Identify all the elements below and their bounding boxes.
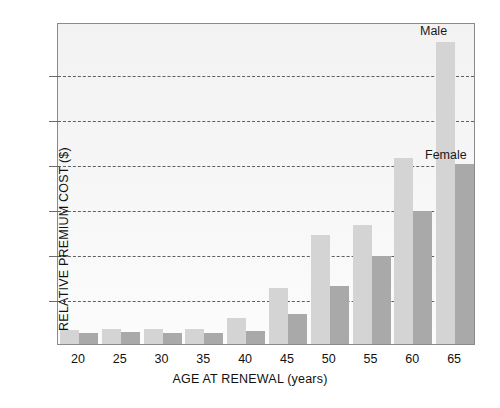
annotation-female: Female: [425, 148, 467, 162]
bar-female-age-60: [413, 211, 432, 344]
bar-male-age-45: [269, 288, 288, 344]
bar-female-age-65: [455, 164, 474, 344]
x-axis-label-55: 55: [351, 352, 391, 366]
x-axis-label-30: 30: [142, 352, 182, 366]
x-axis-label-65: 65: [434, 352, 474, 366]
x-axis-label-60: 60: [392, 352, 432, 366]
bar-male-age-60: [394, 158, 413, 344]
bar-male-age-25: [102, 329, 121, 344]
bar-group-age-30: [144, 329, 182, 344]
bar-series-container: [58, 24, 474, 344]
bar-male-age-55: [353, 225, 372, 344]
x-axis-label-40: 40: [225, 352, 265, 366]
x-axis-label-45: 45: [267, 352, 307, 366]
bar-female-age-35: [204, 333, 223, 344]
bar-male-age-50: [311, 235, 330, 344]
y-axis-tick: [49, 76, 58, 77]
bar-group-age-60: [394, 158, 432, 344]
bar-female-age-55: [372, 256, 391, 344]
bar-group-age-55: [353, 225, 391, 344]
bar-female-age-50: [330, 286, 349, 344]
plot-inner: [58, 24, 474, 344]
bar-female-age-45: [288, 314, 307, 344]
bar-group-age-25: [102, 329, 140, 344]
bar-male-age-65: [436, 42, 455, 344]
x-axis-label-50: 50: [309, 352, 349, 366]
bar-female-age-40: [246, 331, 265, 345]
bar-chart: Male Female 20253035404550556065 AGE AT …: [0, 0, 500, 408]
x-axis-tick-labels: 20253035404550556065: [57, 352, 475, 368]
x-axis-label-35: 35: [183, 352, 223, 366]
y-axis-title-wrapper: RELATIVE PREMIUM COST ($): [30, 60, 31, 61]
bar-group-age-40: [227, 318, 265, 344]
bar-female-age-30: [163, 333, 182, 344]
bar-male-age-35: [185, 329, 204, 344]
bar-group-age-35: [185, 329, 223, 344]
y-axis-title: RELATIVE PREMIUM COST ($): [57, 119, 71, 359]
x-axis-label-25: 25: [100, 352, 140, 366]
bar-group-age-65: [436, 42, 474, 344]
x-axis-title: AGE AT RENEWAL (years): [0, 372, 500, 386]
bar-female-age-20: [79, 333, 98, 344]
bar-male-age-30: [144, 329, 163, 344]
annotation-male: Male: [420, 24, 447, 38]
bar-male-age-40: [227, 318, 246, 344]
plot-area: [57, 23, 475, 345]
bar-group-age-50: [311, 235, 349, 344]
bar-group-age-45: [269, 288, 307, 344]
bar-female-age-25: [121, 332, 140, 344]
